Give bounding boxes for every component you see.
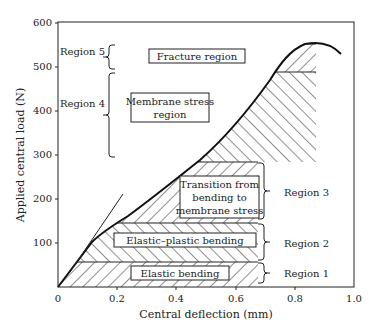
- y-tick-400: 400: [33, 105, 52, 116]
- y-tick-500: 500: [33, 61, 52, 72]
- region4-label: Region 4: [60, 98, 105, 109]
- region3-box: Transition from bending to membrane stre…: [176, 176, 264, 218]
- y-tick-300: 300: [33, 149, 52, 160]
- right-brackets: [258, 163, 270, 283]
- region4-box-line2: region: [154, 109, 187, 120]
- region3-box-line3: membrane stress: [176, 205, 264, 216]
- region5-label: Region 5: [60, 46, 105, 57]
- region4-box: Membrane stress region: [126, 93, 214, 122]
- x-tick-0: 0: [55, 293, 61, 304]
- region2-box-text: Elastic–plastic bending: [126, 235, 244, 246]
- region1-box: Elastic bending: [131, 266, 229, 280]
- x-tick-0.2: 0.2: [109, 293, 125, 304]
- hatched-regions: [58, 44, 316, 287]
- y-tick-100: 100: [33, 237, 52, 248]
- y-tick-600: 600: [33, 17, 52, 28]
- x-tick-0.4: 0.4: [168, 293, 184, 304]
- y-axis-label: Applied central load (N): [14, 88, 27, 224]
- region1-label: Region 1: [284, 268, 329, 279]
- region5-box-text: Fracture region: [157, 51, 238, 62]
- region4-box-line1: Membrane stress: [126, 96, 214, 107]
- load-deflection-diagram: Fracture region Membrane stress region T…: [0, 0, 379, 335]
- region2-box: Elastic–plastic bending: [114, 233, 256, 247]
- y-tick-200: 200: [33, 193, 52, 204]
- x-tick-0.6: 0.6: [228, 293, 244, 304]
- region3-label: Region 3: [284, 187, 329, 198]
- region3-box-line2: bending to: [192, 192, 246, 203]
- x-tick-0.8: 0.8: [287, 293, 303, 304]
- x-tick-1.0: 1.0: [346, 293, 362, 304]
- region2-label: Region 2: [284, 238, 329, 249]
- region5-box: Fracture region: [149, 49, 245, 63]
- region3-box-line1: Transition from: [180, 179, 260, 190]
- x-axis-label: Central deflection (mm): [139, 308, 272, 321]
- region1-box-text: Elastic bending: [141, 268, 220, 279]
